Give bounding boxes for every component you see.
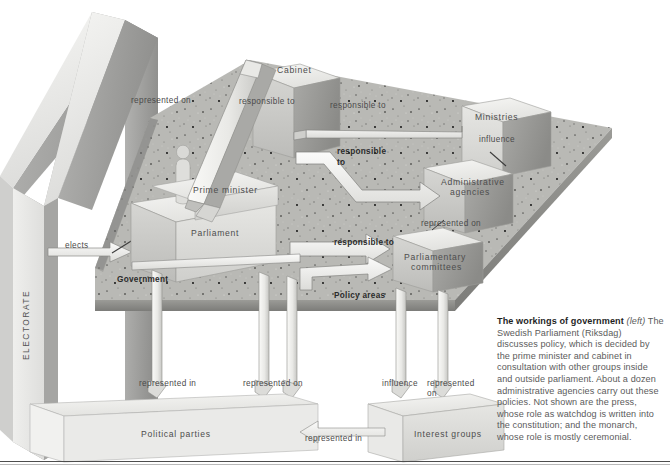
label-responsible-to-ministries: responsible to: [330, 101, 386, 110]
label-represented-on-agencies: represented on: [421, 219, 481, 228]
footer-rule-secondary: [0, 464, 670, 465]
label-responsible-to-bold-2: responsible to: [334, 238, 394, 247]
label-responsible-to-bold-1-line2: to: [337, 158, 345, 167]
box-political-parties: [30, 394, 318, 462]
label-represented-on-interest-line2: on: [427, 389, 437, 398]
label-represented-in-interest: represented in: [305, 434, 362, 443]
label-responsible-to-cabinet: responsible to: [239, 97, 295, 106]
label-policy-areas: Policy areas: [334, 291, 385, 300]
caption-heading: The workings of government: [497, 316, 624, 326]
label-cabinet: Cabinet: [277, 66, 312, 76]
footer-rule: [0, 461, 670, 462]
electorate-label: ELECTORATE: [22, 290, 31, 360]
label-responsible-to-bold-1-line1: responsible: [337, 147, 386, 156]
label-parliamentary-committees-line2: committees: [411, 263, 462, 273]
label-government: Government: [117, 275, 168, 284]
label-elects: elects: [65, 241, 89, 250]
label-influence-ministries: influence: [479, 135, 515, 144]
label-parliament: Parliament: [191, 229, 239, 239]
label-represented-on-interest-line1: represented: [427, 379, 475, 388]
figure-caption: The workings of government (left) The Sw…: [497, 316, 665, 444]
label-administrative-agencies-line2: agencies: [450, 188, 490, 198]
label-interest-groups: Interest groups: [414, 430, 482, 440]
government-diagram-figure: ELECTORATE elects represented on respons…: [0, 0, 670, 475]
caption-heading-suffix: (left): [627, 316, 646, 326]
label-represented-in-parties: represented in: [139, 379, 196, 388]
label-represented-on-cabinet: represented on: [131, 96, 191, 105]
caption-body: The Swedish Parliament (Riksdag) discuss…: [497, 316, 664, 442]
box-interest-groups: [368, 394, 504, 462]
label-prime-minister: Prime minister: [193, 186, 258, 196]
label-represented-on-parties: represented on: [243, 379, 303, 388]
label-political-parties: Political parties: [141, 430, 211, 440]
label-ministries: Ministries: [475, 113, 518, 123]
label-influence-interest: influence: [382, 379, 418, 388]
